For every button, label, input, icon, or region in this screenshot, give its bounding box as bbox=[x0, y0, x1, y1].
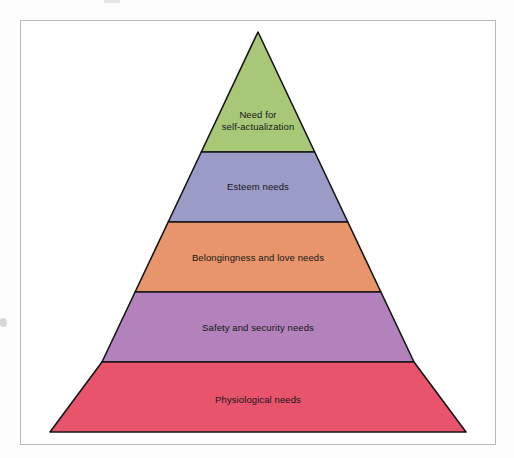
pyramid-tier-esteem[interactable] bbox=[168, 152, 348, 222]
pyramid-tier-safety[interactable] bbox=[102, 292, 414, 362]
pyramid-svg bbox=[0, 0, 514, 458]
pyramid-tier-belongingness[interactable] bbox=[135, 222, 381, 292]
pyramid-diagram: Need for self-actualization Esteem needs… bbox=[0, 0, 514, 458]
pyramid-tier-physiological[interactable] bbox=[50, 362, 466, 432]
pyramid-tier-self-actualization[interactable] bbox=[201, 32, 314, 152]
